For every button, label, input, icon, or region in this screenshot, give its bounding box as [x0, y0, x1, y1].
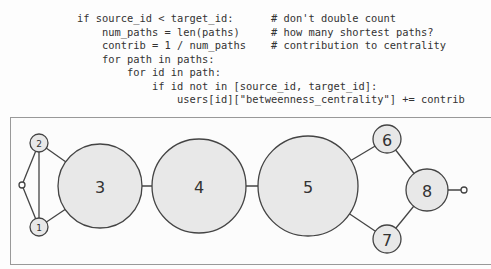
node-label-1: 1: [36, 223, 42, 233]
node-label-4: 4: [194, 178, 204, 197]
node-0: [19, 182, 25, 188]
node-label-2: 2: [36, 139, 42, 149]
node-label-8: 8: [422, 182, 432, 201]
node-label-3: 3: [95, 178, 105, 197]
node-9: [461, 187, 467, 193]
node-label-5: 5: [303, 178, 313, 197]
node-label-7: 7: [382, 231, 392, 250]
node-label-6: 6: [382, 131, 392, 150]
